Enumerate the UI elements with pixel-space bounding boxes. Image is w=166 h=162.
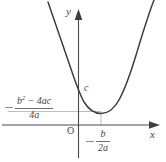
y-intercept-label: c	[84, 83, 88, 93]
graph-canvas	[0, 0, 166, 162]
numerator-rest: − 4ac	[25, 95, 51, 106]
y-axis-arrowhead	[75, 9, 83, 20]
fraction: b 2a	[96, 129, 110, 153]
x-axis-label: x	[150, 129, 155, 140]
fraction-numerator: b	[99, 129, 108, 141]
fraction-numerator: b2 − 4ac	[15, 95, 53, 108]
parabola-curve	[48, 0, 154, 114]
vertex-x-value-label: b 2a	[86, 129, 110, 153]
fraction-denominator: 2a	[96, 142, 110, 154]
vertex-y-value-label: b2 − 4ac 4a	[5, 95, 53, 121]
minus-sign-icon	[86, 141, 94, 142]
parabola-figure: y x O c b2 − 4ac 4a b 2a	[0, 0, 166, 162]
minus-sign-icon	[5, 107, 13, 108]
fraction: b2 − 4ac 4a	[15, 95, 53, 121]
fraction-denominator: 4a	[27, 109, 41, 121]
y-axis-label: y	[66, 6, 71, 17]
origin-label: O	[67, 126, 74, 136]
